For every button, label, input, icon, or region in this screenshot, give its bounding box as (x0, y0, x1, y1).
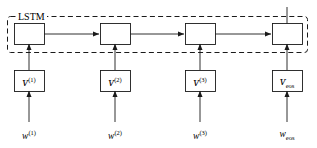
lstm-dashed-boundary (8, 17, 308, 53)
embedding-label-3-sup: (3) (199, 76, 207, 83)
word-label-1: w(1) (9, 128, 49, 141)
embedding-label-eos: ᴠeos (267, 76, 307, 91)
lstm-cell-3 (186, 24, 216, 45)
word-label-3-sup: (3) (199, 129, 207, 136)
embedding-label-3: ᴠ(3) (180, 75, 220, 88)
word-label-eos: weos (267, 129, 307, 143)
lstm-cell-2 (101, 24, 131, 45)
embedding-label-2: ᴠ(2) (95, 75, 135, 88)
embedding-label-eos-sub: eos (286, 82, 295, 89)
diagram-svg (0, 0, 317, 148)
word-label-2-sup: (2) (114, 129, 122, 136)
word-label-1-sup: (1) (28, 129, 36, 136)
embedding-label-1: ᴠ(1) (9, 75, 49, 88)
lstm-group-label: LSTM (16, 11, 47, 22)
word-label-eos-sub: eos (286, 134, 295, 141)
lstm-cell-eos (273, 24, 303, 45)
lstm-cell-1 (15, 24, 45, 45)
word-label-3: w(3) (180, 128, 220, 141)
embedding-label-1-sup: (1) (28, 76, 36, 83)
word-label-2: w(2) (95, 128, 135, 141)
embedding-label-2-sup: (2) (114, 76, 122, 83)
figure-canvas: LSTM ᴠ(1) ᴠ(2) ᴠ(3) ᴠeos w(1) w(2) w(3) … (0, 0, 317, 148)
